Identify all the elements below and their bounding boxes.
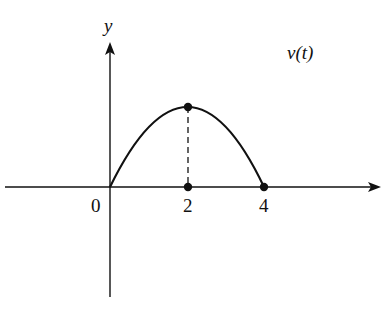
point-t2 [184, 183, 192, 191]
tick-label-4: 4 [259, 195, 269, 216]
peak-point [184, 103, 192, 111]
velocity-graph: y v(t) 0 2 4 [0, 0, 386, 309]
point-t4 [260, 183, 268, 191]
curve-label: v(t) [287, 42, 313, 64]
tick-label-2: 2 [183, 195, 193, 216]
tick-label-0: 0 [91, 195, 101, 216]
velocity-curve [110, 107, 264, 187]
y-axis-label: y [102, 15, 113, 36]
